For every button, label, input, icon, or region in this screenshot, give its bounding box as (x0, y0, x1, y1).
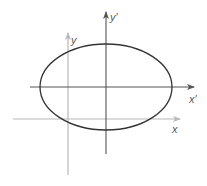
ellipse-translation-diagram: y′ x′ y x (0, 0, 207, 186)
y-prime-label: y′ (109, 11, 119, 23)
y-label: y (70, 34, 78, 46)
x-prime-label: x′ (188, 93, 198, 105)
x-label: x (171, 123, 178, 135)
